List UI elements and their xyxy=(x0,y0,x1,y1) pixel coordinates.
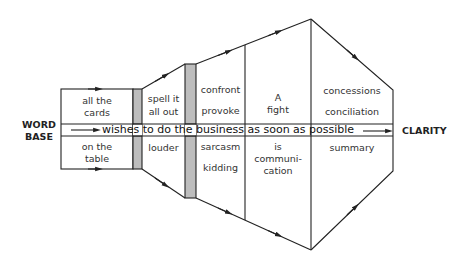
band-text: wishes to do the business as soon as pos… xyxy=(102,124,354,136)
arrow-icon xyxy=(268,231,279,236)
arrow-icon xyxy=(155,178,166,186)
arrow-icon xyxy=(268,32,279,36)
arrow-icon xyxy=(218,208,229,213)
stage-3-top: confrontprovoke xyxy=(196,84,245,117)
word-base-label: WORD BASE xyxy=(22,119,56,143)
stage-3-bottom: sarcasmkidding xyxy=(196,141,245,174)
arrow-icon xyxy=(155,75,166,82)
stage-5-top: concessionsconciliation xyxy=(311,85,393,118)
stage-1-top: all thecards xyxy=(61,95,133,119)
arrow-icon xyxy=(347,207,356,216)
stage-1-bottom: on thetable xyxy=(61,141,133,165)
stage-4-bottom: iscommuni-cation xyxy=(245,141,311,177)
clarity-label: CLARITY xyxy=(402,125,447,137)
stage-4-top: Afight xyxy=(245,92,311,116)
arrow-icon xyxy=(218,51,229,55)
stage-2-bottom: louder xyxy=(142,142,185,154)
stage-5-bottom: summary xyxy=(311,142,393,154)
arrow-icon xyxy=(347,50,356,58)
stage-2-top: spell itall out xyxy=(142,93,185,118)
